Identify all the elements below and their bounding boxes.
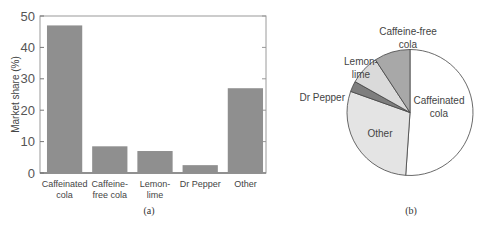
x-tick-label: lime (147, 190, 164, 200)
pie-label: Lemon- (344, 56, 378, 67)
bar-3 (183, 165, 218, 173)
y-tick-label: 10 (21, 134, 35, 149)
chart-figure: 01020304050CaffeinatedcolaCaffeine-free … (0, 0, 481, 226)
pie-label: cola (399, 39, 418, 50)
caption-b: (b) (405, 205, 417, 217)
x-tick-label: Other (234, 179, 257, 189)
caption-a: (a) (143, 205, 154, 217)
pie-label: Caffeinated (414, 95, 465, 106)
x-tick-label: Caffeine- (92, 179, 128, 189)
bar-4 (228, 88, 263, 173)
y-tick-label: 40 (21, 40, 35, 55)
pie-label: Caffeine-free (379, 26, 437, 37)
pie-label: Other (367, 128, 393, 139)
bar-2 (137, 151, 172, 173)
y-tick-label: 30 (21, 71, 35, 86)
x-tick-label: Lemon- (140, 179, 171, 189)
y-tick-label: 50 (21, 9, 35, 24)
y-tick-label: 20 (21, 103, 35, 118)
x-tick-label: free cola (93, 190, 128, 200)
x-tick-label: Caffeinated (42, 179, 88, 189)
bar-1 (92, 146, 127, 173)
pie-label: cola (430, 108, 449, 119)
bar-0 (47, 25, 82, 173)
pie-label: Dr Pepper (299, 92, 345, 103)
x-tick-label: cola (56, 190, 73, 200)
x-tick-label: Dr Pepper (180, 179, 221, 189)
y-tick-label: 0 (28, 166, 35, 181)
pie-label: lime (352, 69, 371, 80)
y-axis-label: Market share (%) (10, 56, 21, 133)
